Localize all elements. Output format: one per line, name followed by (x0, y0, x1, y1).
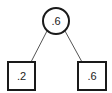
left-leaf-label: .2 (17, 70, 26, 82)
edge-root-left (31, 31, 47, 62)
root-node-label: .6 (51, 15, 60, 27)
right-leaf-node: .6 (78, 62, 106, 90)
edge-root-right (65, 31, 82, 62)
root-node: .6 (43, 8, 69, 34)
left-leaf-node: .2 (8, 62, 35, 90)
right-leaf-label: .6 (87, 70, 96, 82)
tree-diagram: .6 .2 .6 (0, 0, 112, 93)
